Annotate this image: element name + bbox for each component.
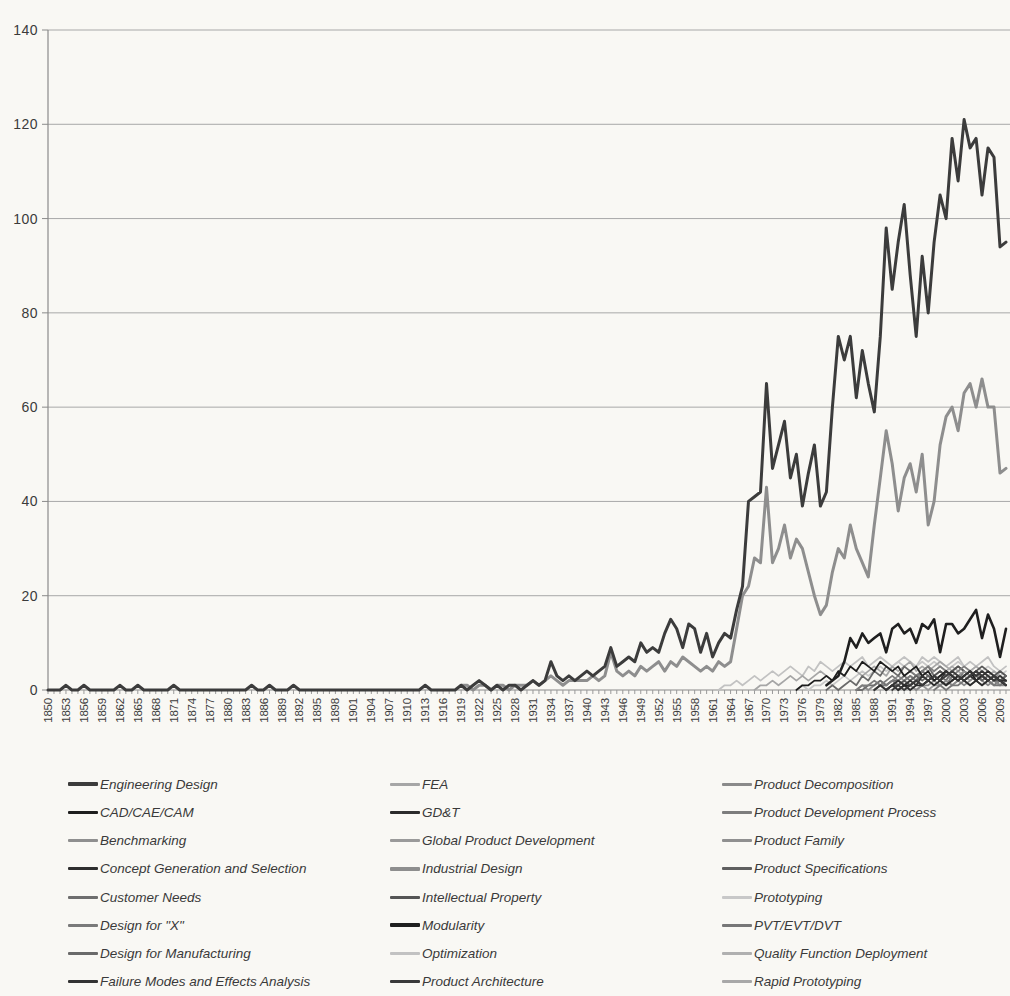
y-axis-tick-label: 80 [21, 305, 38, 321]
x-axis-tick-label: 1898 [329, 698, 341, 723]
x-axis-tick-label: 1901 [347, 698, 359, 723]
x-axis-tick-label: 1940 [581, 698, 593, 723]
x-axis-tick-label: 1994 [904, 697, 916, 723]
x-axis-tick-label: 1934 [545, 697, 557, 723]
legend-label-optimization: Optimization [422, 946, 497, 961]
legend-swatch-industrial-design [390, 867, 420, 871]
legend-label-quality-function-deployment: Quality Function Deployment [754, 946, 927, 961]
x-axis-tick-label: 2000 [940, 698, 952, 723]
x-axis-tick-label: 1946 [617, 698, 629, 723]
x-axis-tick-label: 1865 [132, 698, 144, 723]
x-axis-tick-label: 1964 [725, 697, 737, 723]
legend-label-product-development-process: Product Development Process [754, 805, 936, 820]
legend-column-1: Engineering DesignCAD/CAE/CAMBenchmarkin… [0, 762, 340, 996]
legend-label-product-decomposition: Product Decomposition [754, 777, 894, 792]
legend-swatch-optimization [390, 952, 420, 955]
legend-item-industrial-design: Industrial Design [390, 855, 665, 883]
legend-item-global-product-development: Global Product Development [390, 827, 665, 855]
x-axis-tick-label: 2009 [994, 698, 1006, 723]
x-axis-tick-label: 1970 [760, 698, 772, 723]
x-axis-tick-label: 1874 [186, 697, 198, 723]
x-axis-tick-label: 1868 [150, 698, 162, 723]
legend-item-concept-generation-and-selection: Concept Generation and Selection [68, 855, 340, 883]
legend-swatch-product-specifications [722, 867, 752, 870]
legend-swatch-quality-function-deployment [722, 952, 752, 955]
x-axis-tick-label: 1943 [599, 698, 611, 723]
x-axis-tick-label: 1850 [42, 698, 54, 723]
legend-item-product-development-process: Product Development Process [722, 798, 1010, 826]
legend-label-gd-t: GD&T [422, 805, 460, 820]
legend-swatch-failure-modes-and-effects-analysis [68, 980, 98, 983]
legend-swatch-fea [390, 783, 420, 786]
legend-label-customer-needs: Customer Needs [100, 890, 201, 905]
legend-label-design-for-manufacturing: Design for Manufacturing [100, 946, 251, 961]
x-axis-tick-label: 1967 [743, 698, 755, 723]
y-axis-tick-label: 0 [30, 682, 38, 698]
legend-item-product-architecture: Product Architecture [390, 968, 665, 996]
x-axis-tick-label: 1931 [527, 698, 539, 723]
x-axis-tick-label: 1949 [635, 698, 647, 723]
legend-item-quality-function-deployment: Quality Function Deployment [722, 940, 1010, 968]
legend-item-modularity: Modularity [390, 911, 665, 939]
x-axis-tick-label: 1895 [311, 698, 323, 723]
x-axis-tick-label: 1973 [778, 698, 790, 723]
legend-swatch-gd-t [390, 811, 420, 814]
x-axis-tick-label: 1877 [204, 698, 216, 723]
legend-item-failure-modes-and-effects-analysis: Failure Modes and Effects Analysis [68, 968, 340, 996]
x-axis-tick-label: 1853 [60, 698, 72, 723]
legend-item-pvt-evt-dvt: PVT/EVT/DVT [722, 911, 1010, 939]
x-axis-tick-label: 1856 [78, 698, 90, 723]
legend-label-benchmarking: Benchmarking [100, 833, 186, 848]
legend-item-cad-cae-cam: CAD/CAE/CAM [68, 798, 340, 826]
legend-swatch-intellectual-property [390, 896, 420, 899]
legend-label-fea: FEA [422, 777, 448, 792]
x-axis-tick-label: 1910 [401, 698, 413, 723]
x-axis-tick-label: 1889 [276, 698, 288, 723]
y-axis-tick-label: 60 [21, 399, 38, 415]
y-axis-tick-label: 120 [13, 116, 38, 132]
chart-legend: Engineering DesignCAD/CAE/CAMBenchmarkin… [0, 762, 1010, 996]
legend-item-benchmarking: Benchmarking [68, 827, 340, 855]
legend-swatch-product-family [722, 839, 752, 842]
legend-swatch-pvt-evt-dvt [722, 924, 752, 927]
legend-label-cad-cae-cam: CAD/CAE/CAM [100, 805, 194, 820]
legend-item-design-for-manufacturing: Design for Manufacturing [68, 940, 340, 968]
legend-swatch-design-for-x [68, 924, 98, 927]
legend-label-prototyping: Prototyping [754, 890, 822, 905]
x-axis-tick-label: 1916 [437, 698, 449, 723]
x-axis-tick-label: 1928 [509, 698, 521, 723]
legend-column-3: Product DecompositionProduct Development… [665, 762, 1010, 996]
legend-label-pvt-evt-dvt: PVT/EVT/DVT [754, 918, 841, 933]
x-axis-tick-label: 1985 [850, 698, 862, 723]
y-axis-tick-label: 40 [21, 493, 38, 509]
x-axis-tick-label: 1922 [473, 698, 485, 723]
x-axis-tick-label: 1982 [832, 698, 844, 723]
x-axis-tick-label: 1979 [814, 698, 826, 723]
x-axis-tick-label: 1958 [689, 698, 701, 723]
x-axis-tick-label: 2006 [976, 698, 988, 723]
legend-item-product-family: Product Family [722, 827, 1010, 855]
legend-swatch-cad-cae-cam [68, 811, 98, 814]
x-axis-tick-label: 1886 [258, 698, 270, 723]
legend-swatch-benchmarking [68, 839, 98, 842]
legend-swatch-rapid-prototyping [722, 980, 752, 983]
x-axis-tick-label: 1913 [419, 698, 431, 723]
legend-swatch-engineering-design [68, 782, 98, 786]
x-axis-tick-label: 1904 [365, 697, 377, 723]
legend-item-fea: FEA [390, 770, 665, 798]
x-axis-tick-label: 1871 [168, 698, 180, 723]
x-axis-tick-label: 1961 [707, 698, 719, 723]
legend-item-product-decomposition: Product Decomposition [722, 770, 1010, 798]
legend-label-failure-modes-and-effects-analysis: Failure Modes and Effects Analysis [100, 974, 310, 989]
y-axis-tick-label: 100 [13, 211, 38, 227]
legend-item-intellectual-property: Intellectual Property [390, 883, 665, 911]
x-axis-tick-label: 2003 [958, 698, 970, 723]
legend-swatch-design-for-manufacturing [68, 952, 98, 955]
y-axis-tick-label: 140 [13, 22, 38, 38]
x-axis-tick-label: 1952 [653, 698, 665, 723]
x-axis-tick-label: 1907 [383, 698, 395, 723]
legend-item-customer-needs: Customer Needs [68, 883, 340, 911]
legend-item-optimization: Optimization [390, 940, 665, 968]
x-axis-tick-label: 1955 [671, 698, 683, 723]
legend-label-intellectual-property: Intellectual Property [422, 890, 541, 905]
